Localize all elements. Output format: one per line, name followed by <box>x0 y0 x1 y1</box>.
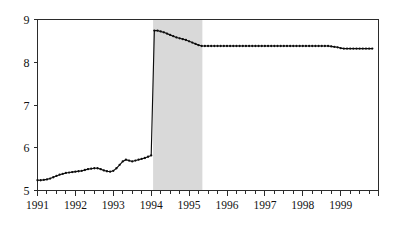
x-tick-label-1996: 1996 <box>216 199 239 211</box>
data-point <box>134 159 136 161</box>
data-point <box>141 158 143 160</box>
data-point <box>144 157 146 159</box>
data-point <box>182 38 184 40</box>
data-point <box>223 45 225 47</box>
data-point <box>238 45 240 47</box>
data-point <box>131 160 133 162</box>
data-point <box>172 35 174 37</box>
y-tick-label-8: 8 <box>24 56 30 70</box>
y-tick-label-6: 6 <box>24 141 30 155</box>
data-point <box>273 45 275 47</box>
data-point <box>49 177 51 179</box>
data-point <box>311 45 313 47</box>
data-point <box>327 45 329 47</box>
data-point <box>36 179 38 181</box>
data-point <box>201 45 203 47</box>
x-axis-tick-marks <box>38 191 379 196</box>
data-point <box>286 45 288 47</box>
data-point <box>175 36 177 38</box>
data-point <box>317 45 319 47</box>
data-point <box>153 29 155 31</box>
data-point <box>74 171 76 173</box>
data-point <box>58 174 60 176</box>
data-point <box>169 34 171 36</box>
data-point <box>235 45 237 47</box>
x-tick-label-1991: 1991 <box>26 199 49 211</box>
data-point <box>188 40 190 42</box>
data-point <box>40 179 42 181</box>
data-point <box>156 29 158 31</box>
data-point <box>270 45 272 47</box>
data-point <box>109 171 111 173</box>
data-point <box>280 45 282 47</box>
data-point <box>292 45 294 47</box>
data-point <box>257 45 259 47</box>
data-point <box>93 167 95 169</box>
data-point <box>229 45 231 47</box>
data-point <box>305 45 307 47</box>
data-point <box>251 45 253 47</box>
data-point <box>267 45 269 47</box>
data-point <box>314 45 316 47</box>
y-axis-tick-marks <box>34 20 38 191</box>
data-point <box>194 43 196 45</box>
data-point <box>355 47 357 49</box>
y-tick-label-5: 5 <box>24 184 30 198</box>
data-point <box>118 164 120 166</box>
data-point <box>125 159 127 161</box>
data-point <box>299 45 301 47</box>
data-point <box>163 31 165 33</box>
data-point <box>62 173 64 175</box>
data-point <box>333 46 335 48</box>
x-tick-label-1992: 1992 <box>64 199 87 211</box>
data-point <box>81 170 83 172</box>
data-point <box>52 176 54 178</box>
data-point <box>46 178 48 180</box>
data-point <box>166 32 168 34</box>
data-point <box>371 47 373 49</box>
data-point <box>283 45 285 47</box>
data-point <box>242 45 244 47</box>
chart-figure: 56789 1991199219931994199519961997199819… <box>0 0 408 228</box>
data-point <box>368 47 370 49</box>
data-point <box>106 170 108 172</box>
y-axis-tick-labels: 56789 <box>24 13 30 198</box>
data-point <box>204 45 206 47</box>
data-point <box>160 30 162 32</box>
data-point <box>245 45 247 47</box>
x-tick-label-1994: 1994 <box>140 199 163 211</box>
data-point <box>207 45 209 47</box>
data-point <box>261 45 263 47</box>
series-line-1 <box>38 31 373 181</box>
x-tick-label-1998: 1998 <box>291 199 314 211</box>
data-point <box>191 41 193 43</box>
data-point <box>352 47 354 49</box>
y-tick-label-9: 9 <box>24 13 30 27</box>
data-point <box>248 45 250 47</box>
data-point <box>302 45 304 47</box>
data-point <box>77 170 79 172</box>
data-point <box>43 179 45 181</box>
data-point <box>71 171 73 173</box>
y-tick-label-7: 7 <box>24 99 30 113</box>
data-point <box>147 156 149 158</box>
data-point <box>340 47 342 49</box>
data-point <box>346 47 348 49</box>
data-point <box>365 47 367 49</box>
data-point <box>90 168 92 170</box>
data-point <box>321 45 323 47</box>
shaded-band-group <box>153 20 202 191</box>
data-point <box>289 45 291 47</box>
data-point <box>103 169 105 171</box>
data-point <box>226 45 228 47</box>
data-point <box>330 45 332 47</box>
data-point <box>264 45 266 47</box>
data-point <box>336 46 338 48</box>
x-tick-label-1999: 1999 <box>329 199 352 211</box>
x-tick-label-1995: 1995 <box>178 199 201 211</box>
data-point <box>362 47 364 49</box>
data-point <box>210 45 212 47</box>
data-point <box>96 167 98 169</box>
data-point <box>295 45 297 47</box>
x-tick-label-1997: 1997 <box>253 199 276 211</box>
